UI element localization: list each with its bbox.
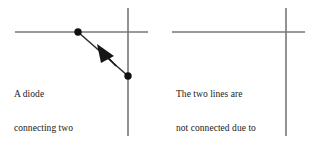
no-diode-caption: The two lines are not connected due to t…: [176, 67, 263, 146]
caption-line: connecting two: [14, 123, 74, 134]
caption-line: The two lines are: [176, 89, 263, 100]
diode-connected-caption: A diode connecting two lines represents …: [14, 67, 74, 146]
no-diode-panel: The two lines are not connected due to t…: [157, 0, 314, 146]
figure-canvas: A diode connecting two lines represents …: [0, 0, 314, 146]
junction-dot-bottom: [124, 72, 131, 79]
caption-line: A diode: [14, 89, 74, 100]
diode-connected-panel: A diode connecting two lines represents …: [0, 0, 157, 146]
junction-dot-top: [74, 28, 81, 35]
caption-line: not connected due to: [176, 123, 263, 134]
